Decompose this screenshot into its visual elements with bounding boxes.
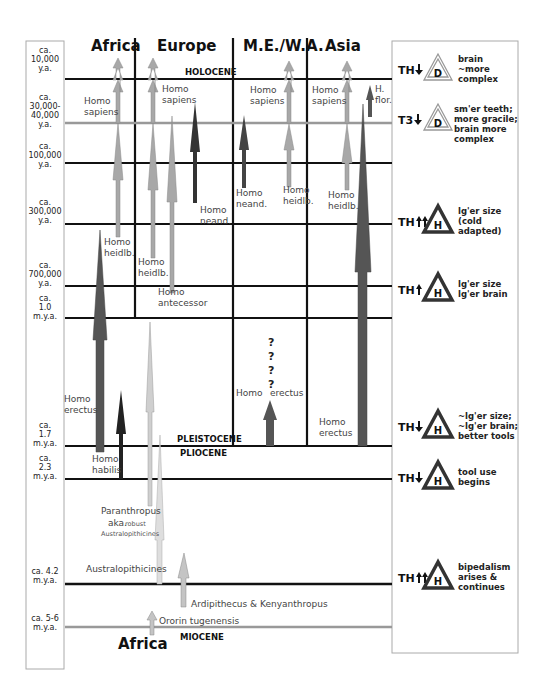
time-label-9-line: m.y.a.: [33, 623, 57, 632]
time-label-8-line: ca. 4.2: [31, 567, 58, 576]
time-label-6-line: ca.: [39, 421, 51, 430]
arrow-europe-sapiens: [148, 58, 158, 123]
species-mewa-heidlb-line: heidlb.: [283, 196, 314, 206]
hominin-evolution-diagram: Africa Europe M.E./W.A. Asia HOLOCENE PL…: [0, 0, 547, 687]
species-asia-flor-line: flor.: [375, 95, 392, 105]
legend-marker: T3: [398, 114, 413, 127]
time-label-7-line: ca.: [39, 454, 51, 463]
column-header-asia: Asia: [325, 37, 361, 55]
species-africa-erectus: Homoerectus: [64, 394, 98, 415]
legend-description-line: bipedalism: [458, 562, 511, 572]
legend-description-line: ~lg'er brain;: [458, 421, 518, 431]
species-europe-antecessor: Homoantecessor: [158, 287, 208, 308]
legend-marker: TH: [398, 472, 415, 485]
legend-description-line: better tools: [458, 431, 515, 441]
species-asia-erectus: Homoerectus: [319, 417, 353, 438]
epoch-pleistocene: PLEISTOCENE: [177, 434, 242, 444]
species-mewa-sapiens: Homosapiens: [250, 85, 285, 106]
species-mewa-neand-line: neand.: [236, 199, 267, 209]
column-header-europe: Europe: [157, 37, 217, 55]
species-mewa-neand: Homoneand.: [236, 188, 267, 209]
legend-description-line: more gracile;: [454, 114, 518, 124]
species-europe-neand-line: neand.: [200, 216, 231, 226]
time-label-2-line: y.a.: [38, 160, 52, 169]
species-africa-habilis-line: Homo: [92, 454, 119, 464]
species-mewa-sapiens-line: Homo: [250, 85, 277, 95]
legend-marker: TH: [398, 64, 415, 77]
legend-description-line: continues: [458, 582, 505, 592]
time-label-5-line: ca.: [39, 294, 51, 303]
arrow-africa-erectus: [93, 230, 107, 452]
legend-description-line: adapted): [458, 226, 502, 236]
species-africa-sapiens-line: Homo: [84, 96, 111, 106]
species-europe-sapiens-line: Homo: [162, 84, 189, 94]
column-header-africa: Africa: [91, 37, 141, 55]
species-asia-erectus-line: Homo: [319, 417, 346, 427]
arrow-asia-sapiens: [342, 61, 352, 123]
species-europe-neand-line: Homo: [200, 205, 227, 215]
arrow-europe-neand: [190, 102, 200, 203]
bottom-africa-label: Africa: [118, 635, 168, 653]
arrow-mewa-sapiens: [284, 61, 294, 123]
triangle-letter: D: [434, 68, 442, 79]
arrow-europe-heidlb: [148, 123, 158, 258]
time-label-2-line: ca.: [39, 142, 51, 151]
species-europe-sapiens: Homosapiens: [162, 84, 197, 105]
arrow-asia-heidlb: [342, 124, 352, 190]
legend-marker: TH: [398, 216, 415, 229]
legend-description-line: begins: [458, 477, 490, 487]
question-mark: ?: [268, 336, 274, 349]
time-label-7-line: 2.3: [39, 463, 52, 472]
legend-description-line: brain: [458, 54, 483, 64]
triangle-letter: H: [434, 288, 442, 299]
legend-description: ~lg'er size;~lg'er brain;better tools: [458, 411, 518, 441]
time-label-8: ca. 4.2m.y.a.: [31, 567, 58, 585]
triangle-letter: H: [434, 476, 442, 487]
species-africa-sapiens-line: sapiens: [84, 107, 119, 117]
species-mewa-erectus: erectus: [270, 388, 304, 398]
time-label-9-line: ca. 5-6: [31, 614, 58, 623]
species-africa-habilis: Homohabilis: [92, 454, 121, 475]
time-label-1-line: 30,000-: [30, 102, 61, 111]
species-europe-heidlb-line: Homo: [138, 257, 165, 267]
time-label-3-line: y.a.: [38, 216, 52, 225]
arrow-africa-heidlb: [113, 123, 123, 237]
time-label-0-line: ca.: [39, 46, 51, 55]
species-mewa-heidlb: Homoheidlb.: [283, 185, 314, 206]
species-africa-heidlb-line: Homo: [104, 237, 131, 247]
species-ardipithecus: Ardipithecus & Kenyanthropus: [191, 599, 328, 609]
species-asia-heidlb: Homoheidlb.: [328, 190, 359, 211]
species-mewa-heidlb-line: Homo: [283, 185, 310, 195]
species-asia-heidlb-line: Homo: [328, 190, 355, 200]
arrow-europe-antecessor: [167, 116, 177, 293]
time-label-1-line: 40,000: [31, 111, 59, 120]
triangle-letter: D: [434, 118, 442, 129]
legend-description-line: tool use: [458, 467, 497, 477]
legend-description-line: complex: [458, 74, 498, 84]
column-header-mewa: M.E./W.A.: [243, 37, 324, 55]
legend-description-line: ~lg'er size;: [458, 411, 512, 421]
species-asia-sapiens-line: Homo: [312, 85, 339, 95]
time-label-4-line: 700,000: [28, 270, 61, 279]
time-label-7-line: m.y.a.: [33, 472, 57, 481]
column-headers: Africa Europe M.E./W.A. Asia: [91, 37, 361, 55]
species-paranthropus-robust: robust: [125, 520, 146, 528]
species-europe-heidlb: Homoheidlb.: [138, 257, 169, 278]
species-asia-sapiens-line: sapiens: [312, 96, 347, 106]
species-europe-sapiens-line: sapiens: [162, 95, 197, 105]
time-label-2-line: 100,000: [28, 151, 61, 160]
species-europe-antecessor-line: antecessor: [158, 298, 208, 308]
time-label-4-line: y.a.: [38, 279, 52, 288]
time-label-0-line: 10,000: [31, 55, 59, 64]
time-label-1-line: y.a.: [38, 120, 52, 129]
species-mewa-neand-line: Homo: [236, 188, 263, 198]
triangle-letter: H: [434, 220, 442, 231]
legend-description-line: ~more: [458, 64, 490, 74]
species-europe-antecessor-line: Homo: [158, 287, 185, 297]
species-africa-habilis-line: habilis: [92, 465, 121, 475]
arrow-mewa-neand: [239, 115, 249, 188]
epoch-holocene: HOLOCENE: [185, 67, 237, 77]
time-label-9: ca. 5-6m.y.a.: [31, 614, 58, 632]
species-africa-heidlb-line: heidlb.: [104, 248, 135, 258]
time-label-0-line: y.a.: [38, 64, 52, 73]
